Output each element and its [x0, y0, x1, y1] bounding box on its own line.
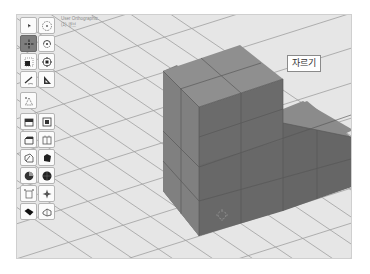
transform-icon — [41, 56, 53, 68]
tooltip: 자르기 — [287, 55, 321, 72]
rip-region-tool[interactable] — [38, 203, 55, 220]
scale-tool[interactable] — [20, 53, 37, 70]
transform-tool[interactable] — [38, 53, 55, 70]
measure-icon — [41, 74, 53, 86]
poly-build-icon — [41, 152, 53, 164]
extrude-region-tool[interactable] — [20, 113, 37, 130]
3d-viewport[interactable]: User Orthographic (1) 큐브 — [16, 14, 352, 259]
spin-icon — [23, 170, 35, 182]
loop-cut-tool[interactable] — [38, 131, 55, 148]
edge-slide-icon — [23, 188, 35, 200]
scale-icon — [23, 56, 35, 68]
rotate-tool[interactable] — [38, 35, 55, 52]
bevel-tool[interactable] — [20, 131, 37, 148]
annotate-icon — [23, 74, 35, 86]
viewport-scene[interactable] — [17, 15, 352, 259]
loop-cut-icon — [41, 134, 53, 146]
poly-build-tool[interactable] — [38, 149, 55, 166]
tool-shelf — [20, 17, 58, 221]
spin-tool[interactable] — [20, 167, 37, 184]
select-circle-icon — [41, 20, 53, 32]
knife-tool[interactable] — [20, 149, 37, 166]
view-subtitle: (1) 큐브 — [61, 22, 98, 28]
stepped-cube-mesh[interactable] — [163, 45, 352, 236]
edge-slide-tool[interactable] — [20, 185, 37, 202]
rotate-icon — [41, 38, 53, 50]
add-cone-icon — [23, 95, 35, 107]
annotate-tool[interactable] — [20, 71, 37, 88]
knife-icon — [23, 152, 35, 164]
inset-faces-tool[interactable] — [38, 113, 55, 130]
shrink-fatten-tool[interactable] — [38, 185, 55, 202]
smooth-tool[interactable] — [38, 167, 55, 184]
select-cursor-icon — [23, 20, 35, 32]
bevel-icon — [23, 134, 35, 146]
view-label: User Orthographic (1) 큐브 — [61, 16, 98, 27]
inset-faces-icon — [41, 116, 53, 128]
measure-tool[interactable] — [38, 71, 55, 88]
move-icon — [23, 38, 35, 50]
shrink-fatten-icon — [41, 188, 53, 200]
select-cursor-tool[interactable] — [20, 17, 37, 34]
extrude-region-icon — [23, 116, 35, 128]
select-circle-tool[interactable] — [38, 17, 55, 34]
add-cone-tool[interactable] — [20, 92, 37, 109]
rip-region-icon — [41, 206, 53, 218]
shear-icon — [23, 206, 35, 218]
smooth-icon — [41, 170, 53, 182]
shear-tool[interactable] — [20, 203, 37, 220]
view-name: User Orthographic — [61, 16, 98, 22]
move-tool[interactable] — [20, 35, 37, 52]
